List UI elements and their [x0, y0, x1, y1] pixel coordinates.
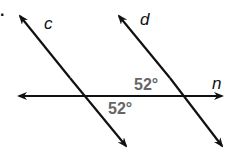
angle-label-lower: 52°	[108, 100, 132, 118]
diagram-canvas	[0, 0, 228, 152]
label-c: c	[44, 14, 53, 34]
angle-label-upper: 52°	[134, 76, 158, 94]
label-n: n	[212, 74, 221, 94]
label-d: d	[140, 10, 149, 30]
